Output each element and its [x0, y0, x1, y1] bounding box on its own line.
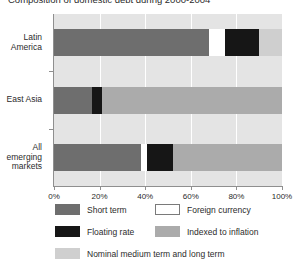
bar-segment: [141, 144, 148, 171]
y-axis-category-label: East Asia: [0, 95, 42, 105]
legend-swatch: [55, 226, 80, 237]
legend-item[interactable]: Short term: [55, 204, 127, 215]
x-axis-tick-label: 0%: [48, 192, 60, 201]
bar-latin-america: [54, 29, 282, 56]
bar-segment: [259, 29, 282, 56]
x-axis-tick-label: 40%: [137, 192, 153, 201]
bar-segment: [54, 87, 92, 114]
x-axis-line: [53, 186, 283, 187]
x-axis-tick: [145, 186, 146, 190]
legend-label: Floating rate: [87, 227, 134, 237]
legend-swatch: [155, 226, 180, 237]
y-axis-tick: [49, 129, 53, 130]
x-axis-tick-label: 20%: [92, 192, 108, 201]
legend-swatch: [55, 248, 80, 259]
legend-label: Short term: [87, 205, 127, 215]
bar-segment: [225, 29, 259, 56]
bar-segment: [209, 29, 225, 56]
bar-segment: [92, 87, 102, 114]
x-axis-tick: [236, 186, 237, 190]
legend-label: Nominal medium term and long term: [87, 249, 224, 259]
legend-row: Floating rateIndexed to inflation: [0, 226, 294, 244]
x-axis-tick-label: 100%: [272, 192, 292, 201]
legend-row: Nominal medium term and long term: [0, 248, 294, 266]
legend-label: Foreign currency: [187, 205, 251, 215]
legend-item[interactable]: Foreign currency: [155, 204, 251, 215]
bar-segment: [54, 144, 141, 171]
y-axis-line: [53, 14, 54, 186]
legend-swatch: [155, 204, 180, 215]
y-axis-tick: [49, 71, 53, 72]
plot-area: [54, 14, 282, 186]
x-axis-tick: [282, 186, 283, 190]
bar-chart: LatinAmericaEast AsiaAllemergingmarkets …: [0, 8, 294, 194]
bar-segment: [173, 144, 282, 171]
legend-item[interactable]: Floating rate: [55, 226, 134, 237]
bar-segment: [147, 144, 172, 171]
category-label-line: America: [0, 43, 42, 53]
legend-label: Indexed to inflation: [187, 227, 258, 237]
bar-east-asia: [54, 87, 282, 114]
bar-all-emerging-markets: [54, 144, 282, 171]
chart-title: Composition of domestic debt during 2000…: [8, 0, 290, 5]
category-label-line: markets: [0, 162, 42, 172]
legend-item[interactable]: Indexed to inflation: [155, 226, 258, 237]
y-axis-category-label: Allemergingmarkets: [0, 143, 42, 172]
legend-item[interactable]: Nominal medium term and long term: [55, 248, 224, 259]
legend-swatch: [55, 204, 80, 215]
bar-segment: [54, 29, 209, 56]
x-axis-tick-label: 80%: [228, 192, 244, 201]
x-axis-tick-label: 60%: [183, 192, 199, 201]
bar-segment: [102, 87, 282, 114]
x-axis-tick: [54, 186, 55, 190]
legend-row: Short termForeign currency: [0, 204, 294, 222]
y-axis-category-label: LatinAmerica: [0, 33, 42, 52]
category-label-line: East Asia: [0, 95, 42, 105]
x-axis-tick: [191, 186, 192, 190]
x-axis-tick: [100, 186, 101, 190]
